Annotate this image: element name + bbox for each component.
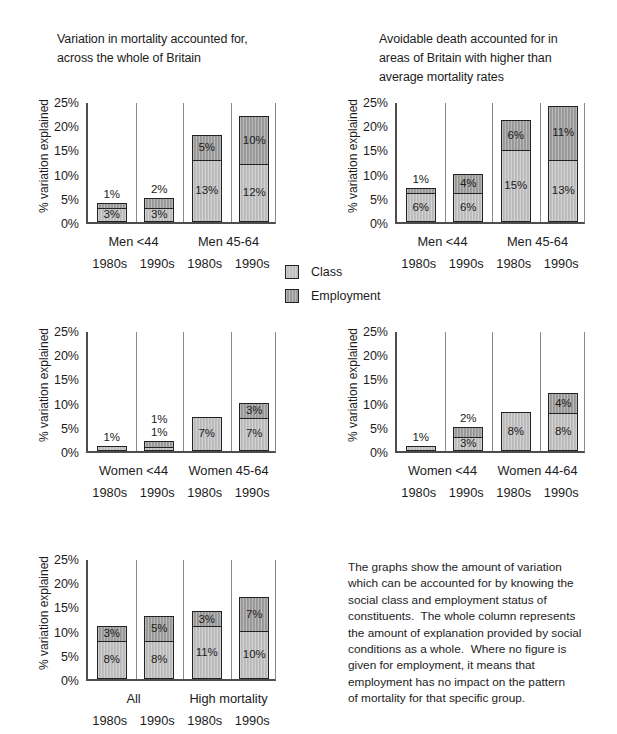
y-tick-label: 25% <box>29 552 79 568</box>
class-segment: 12% <box>239 164 269 222</box>
class-value-label: 11% <box>196 647 218 659</box>
y-tick-label: 25% <box>338 95 388 111</box>
employment-value-label: 10% <box>243 135 266 147</box>
legend-item-class: Class <box>285 265 380 279</box>
bar-outside-labels: 1% <box>398 173 444 186</box>
y-tick-label: 15% <box>338 372 388 388</box>
class-value-label: 8% <box>103 654 120 666</box>
y-tick-label: 15% <box>29 372 79 388</box>
y-tick-label: 5% <box>29 421 79 437</box>
bar-value-label: 1% <box>398 173 444 186</box>
legend-employment-label: Employment <box>311 289 380 303</box>
bar-outside-labels: 1%1% <box>136 413 182 439</box>
class-value-label: 3% <box>151 209 168 221</box>
bar-outside-labels: 2% <box>445 412 491 425</box>
y-tick-label: 10% <box>29 397 79 413</box>
column-separator <box>445 332 446 451</box>
employment-segment: 5% <box>144 616 174 642</box>
y-tick-label: 10% <box>29 168 79 184</box>
employment-segment <box>406 188 436 194</box>
column-separator <box>540 332 541 451</box>
employment-value-label: 7% <box>246 609 263 621</box>
class-value-label: 12% <box>243 187 266 199</box>
group-label: High mortality <box>169 691 289 706</box>
y-tick-label: 20% <box>29 576 79 592</box>
employment-segment: 3% <box>192 611 222 627</box>
bar-value-label: 2% <box>445 412 491 425</box>
employment-segment: 4% <box>453 174 483 195</box>
column-separator <box>540 103 541 222</box>
column-separator <box>136 103 137 222</box>
bar-value-label: 1% <box>136 413 182 426</box>
column-separator <box>183 332 184 451</box>
y-tick-label: 5% <box>338 421 388 437</box>
class-value-label: 13% <box>195 185 218 197</box>
bar-value-label: 1% <box>89 188 135 201</box>
y-tick-label: 25% <box>338 324 388 340</box>
employment-segment: 5% <box>192 135 222 161</box>
employment-segment: 6% <box>501 120 531 151</box>
employment-value-label: 4% <box>460 178 477 190</box>
chart-all-vs-high-mortality: % variation explained0%5%10%15%20%25%8%3… <box>0 457 300 732</box>
y-tick-label: 15% <box>338 143 388 159</box>
column-separator <box>445 103 446 222</box>
employment-segment <box>144 441 174 447</box>
employment-segment <box>453 427 483 438</box>
class-value-label: 15% <box>504 180 527 192</box>
class-segment <box>97 446 127 451</box>
plot-area: 6%1%6%4%15%6%13%11% <box>395 103 585 224</box>
plot-area: 8%3%8%5%11%3%10%7% <box>86 560 276 681</box>
bar-value-label: 1% <box>398 431 444 444</box>
class-segment: 13% <box>192 159 222 222</box>
class-value-label: 7% <box>198 428 215 440</box>
y-tick-label: 10% <box>338 397 388 413</box>
employment-segment: 3% <box>239 403 269 419</box>
chart-title: Variation in mortality accounted for,acr… <box>57 30 248 68</box>
class-segment: 7% <box>239 417 269 451</box>
chart-title-line: Avoidable death accounted for in <box>379 30 558 49</box>
bar-value-label: 1% <box>136 426 182 439</box>
class-value-label: 6% <box>460 202 477 214</box>
group-label: Women 44-64 <box>478 463 598 478</box>
class-swatch-icon <box>285 265 299 279</box>
figure-page: Variation in mortality accounted for,acr… <box>0 0 617 734</box>
y-tick-label: 20% <box>338 348 388 364</box>
chart-title-line: areas of Britain with higher than <box>379 49 558 68</box>
class-value-label: 6% <box>412 202 429 214</box>
y-tick-label: 15% <box>29 600 79 616</box>
y-tick-label: 5% <box>29 649 79 665</box>
column-separator <box>231 560 232 679</box>
y-tick-label: 10% <box>29 625 79 641</box>
y-tick-label: 5% <box>338 192 388 208</box>
category-label: 1990s <box>222 713 282 728</box>
employment-value-label: 3% <box>246 405 263 417</box>
employment-segment <box>144 198 174 209</box>
y-tick-label: 25% <box>29 324 79 340</box>
explanatory-note: The graphs show the amount of variation … <box>348 559 610 707</box>
class-value-label: 8% <box>555 426 572 438</box>
employment-value-label: 4% <box>555 398 572 410</box>
y-tick-label: 20% <box>338 119 388 135</box>
class-segment: 6% <box>406 193 436 222</box>
employment-segment: 11% <box>548 106 578 161</box>
plot-area: 3%1%3%2%13%5%12%10% <box>86 103 276 224</box>
employment-value-label: 3% <box>103 628 120 640</box>
employment-value-label: 11% <box>552 127 574 139</box>
y-tick-label: 20% <box>29 119 79 135</box>
class-segment: 7% <box>192 417 222 451</box>
class-segment: 10% <box>239 631 269 679</box>
column-separator <box>231 103 232 222</box>
employment-segment: 4% <box>548 393 578 414</box>
y-tick-label: 10% <box>338 168 388 184</box>
employment-swatch-icon <box>285 289 299 303</box>
column-separator <box>492 103 493 222</box>
class-value-label: 10% <box>243 649 266 661</box>
class-segment <box>406 446 436 451</box>
column-separator <box>231 332 232 451</box>
class-value-label: 7% <box>246 428 263 440</box>
class-segment: 8% <box>548 412 578 451</box>
column-separator <box>183 103 184 222</box>
class-value-label: 3% <box>103 209 120 221</box>
employment-value-label: 5% <box>198 142 215 154</box>
class-segment: 3% <box>97 207 127 222</box>
